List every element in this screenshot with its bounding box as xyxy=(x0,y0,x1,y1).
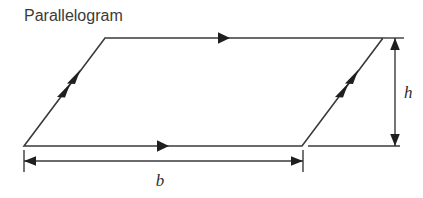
base-arrow-right-icon xyxy=(291,156,303,166)
top-edge-direction-arrow-icon xyxy=(218,32,230,44)
base-arrow-left-icon xyxy=(24,156,36,166)
base-label: b xyxy=(156,171,165,190)
height-arrow-up-icon xyxy=(390,38,400,50)
parallelogram-outline xyxy=(24,38,383,146)
parallelogram-diagram: b h xyxy=(0,0,423,198)
right-edge-direction-arrows-icon xyxy=(335,70,359,98)
bottom-edge-direction-arrow-icon xyxy=(157,140,169,152)
left-edge-direction-arrows-icon xyxy=(57,70,81,98)
height-arrow-down-icon xyxy=(390,134,400,146)
height-label: h xyxy=(404,83,413,102)
parallelogram-figure: Parallelogram xyxy=(0,0,423,198)
